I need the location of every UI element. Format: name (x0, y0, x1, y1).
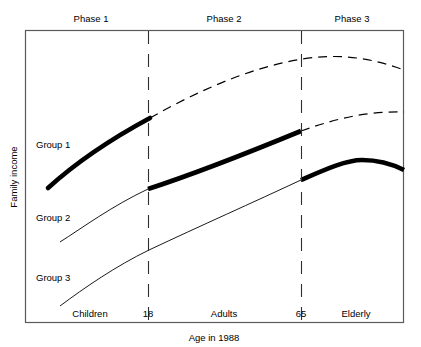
xtick-65: 65 (296, 308, 307, 319)
phase-3-label: Phase 3 (335, 13, 370, 24)
group-2-label: Group 2 (36, 212, 70, 223)
cohort-income-chart: Phase 1 Phase 2 Phase 3 Group 1 Group 2 … (0, 0, 421, 347)
xtick-adults: Adults (211, 308, 238, 319)
group-3-label: Group 3 (36, 272, 70, 283)
xtick-children: Children (72, 308, 107, 319)
x-axis-title: Age in 1988 (189, 332, 240, 343)
phase-2-label: Phase 2 (207, 13, 242, 24)
xtick-18: 18 (143, 308, 154, 319)
phase-1-label: Phase 1 (74, 13, 109, 24)
y-axis-title: Family income (8, 146, 19, 207)
group-1-label: Group 1 (36, 139, 70, 150)
xtick-elderly: Elderly (341, 308, 370, 319)
